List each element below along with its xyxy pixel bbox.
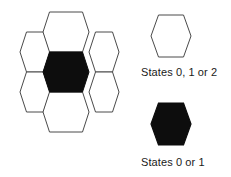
hex-cell-center: [43, 52, 89, 92]
hexagon-filled-icon: [146, 98, 204, 150]
legend-label-states-0-1: States 0 or 1: [141, 156, 205, 169]
hex-cell-top: [43, 12, 89, 52]
hexagon-outline-icon: [146, 10, 204, 62]
hexagon-cluster: [14, 6, 118, 146]
hexagon-cluster-svg: [14, 6, 118, 146]
legend-swatch-filled: [146, 98, 204, 150]
hexagon-outline-shape: [151, 15, 191, 57]
legend-swatch-outline: [146, 10, 204, 62]
hex-cell-lower-right: [89, 72, 119, 112]
hex-cell-bottom: [43, 92, 89, 132]
legend-label-states-0-1-2: States 0, 1 or 2: [141, 66, 217, 79]
hexagon-filled-shape: [151, 103, 191, 145]
hex-cell-upper-right: [89, 32, 119, 72]
hexagon-state-figure: States 0, 1 or 2 States 0 or 1: [0, 0, 231, 177]
